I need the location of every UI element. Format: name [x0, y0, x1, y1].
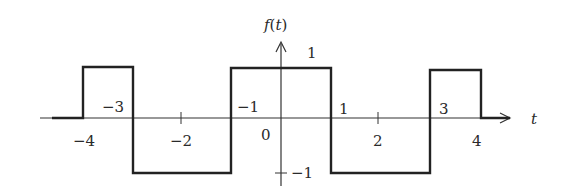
- x-tick-label-zero: 0: [261, 126, 271, 144]
- y-tick-label-m1: −1: [291, 164, 313, 182]
- x-tick-label-m1: −1: [237, 98, 259, 116]
- x-tick-label-m4: −4: [73, 132, 95, 150]
- x-tick-label-p2: 2: [373, 132, 383, 150]
- x-tick-label-p4: 4: [472, 132, 482, 150]
- step-function-plot: f(t) t −4 −3 −2 −1 0 1 2 3 4 1 −1: [0, 0, 564, 192]
- y-axis-label: f(t): [263, 16, 287, 34]
- x-tick-label-m2: −2: [170, 132, 192, 150]
- x-tick-label-m3: −3: [102, 98, 124, 116]
- x-tick-label-p1: 1: [339, 100, 349, 118]
- x-tick-label-p3: 3: [439, 100, 449, 118]
- x-axis-label: t: [531, 110, 538, 128]
- y-tick-label-p1: 1: [307, 44, 317, 62]
